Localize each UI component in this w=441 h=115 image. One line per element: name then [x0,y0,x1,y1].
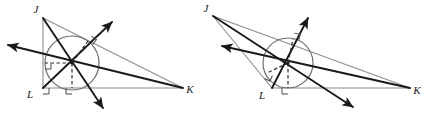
right-angle-at-vertex-L [43,88,49,94]
bisector-from-L [272,18,308,88]
vertex-label-K: K [185,83,194,95]
incenter-point [286,61,289,64]
vertex-label-K: K [412,84,421,96]
bisector-from-K [222,46,410,88]
radius-to-side-JL [267,63,288,73]
geometry-figure: JKLJKL [0,0,441,115]
figure-canvas: JKLJKL [0,0,441,115]
side-JK [43,18,183,88]
vertex-label-J: J [34,3,40,15]
right-angle-at-LK-tangent [66,88,72,94]
radius-to-side-JK [72,41,88,63]
bisector-from-K [8,45,183,88]
right-angle-at-LK-tangent [282,88,288,94]
obtuse-triangle-incircle: JKL [204,2,422,107]
incenter-point [70,61,73,64]
vertex-label-L: L [26,88,33,100]
radius-to-side-JK [288,39,293,63]
right-triangle-incircle: JKL [8,3,194,108]
bisector-from-J [213,16,353,107]
vertex-label-L: L [258,89,265,101]
vertex-label-J: J [204,2,210,14]
